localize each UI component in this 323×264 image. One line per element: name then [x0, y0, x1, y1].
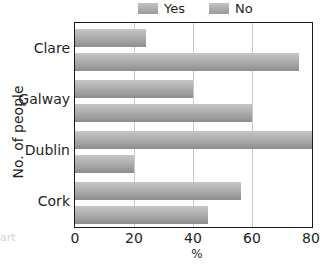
bar-chart: Yes No No. of people Clare Galway Dublin… — [0, 0, 323, 264]
x-axis-label: % — [191, 248, 202, 260]
bar-clare-no — [75, 53, 299, 71]
x-tick-60: 60 — [243, 231, 261, 245]
bar-clare-yes — [75, 29, 146, 47]
x-tick-80: 80 — [302, 231, 320, 245]
chart-legend: Yes No — [138, 1, 253, 16]
legend-swatch-no — [209, 3, 229, 14]
bar-dublin-no — [75, 131, 312, 149]
legend-item-no: No — [209, 2, 253, 15]
bar-cork-yes — [75, 206, 208, 224]
bars-layer — [75, 23, 312, 227]
watermark-text: art — [0, 232, 16, 243]
x-tick-0: 0 — [71, 231, 80, 245]
plot-area — [74, 22, 313, 228]
legend-label-yes: Yes — [164, 2, 185, 15]
y-tick-galway: Galway — [18, 92, 70, 106]
x-tick-20: 20 — [125, 231, 143, 245]
y-tick-cork: Cork — [38, 194, 70, 208]
bar-dublin-yes — [75, 155, 134, 173]
x-tick-40: 40 — [184, 231, 202, 245]
bar-cork-no — [75, 182, 241, 200]
y-tick-clare: Clare — [34, 41, 70, 55]
legend-item-yes: Yes — [138, 2, 185, 15]
bar-galway-yes — [75, 80, 193, 98]
legend-swatch-yes — [138, 3, 158, 14]
y-tick-dublin: Dublin — [25, 143, 70, 157]
bar-galway-no — [75, 104, 252, 122]
legend-label-no: No — [235, 2, 253, 15]
y-axis-tick-labels: Clare Galway Dublin Cork — [0, 0, 70, 264]
